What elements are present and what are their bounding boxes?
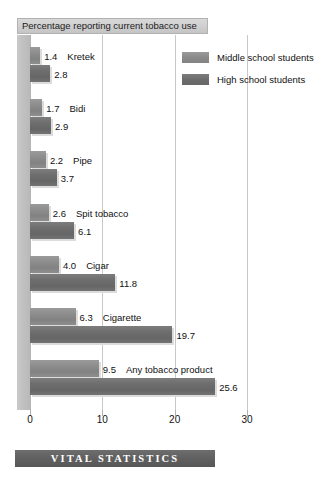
bar-shadow-right bbox=[74, 224, 76, 241]
bar-shadow-right bbox=[59, 258, 61, 275]
bar-shadow-right bbox=[46, 153, 48, 170]
value-label-middle-spit-tobacco: 2.6 bbox=[53, 208, 66, 219]
vital-statistics-banner: VITAL STATISTICS bbox=[15, 450, 215, 467]
bar-body bbox=[30, 222, 74, 239]
bar-shadow-bottom bbox=[32, 134, 53, 136]
value-label-high-pipe: 3.7 bbox=[61, 173, 74, 184]
bar-shadow-right bbox=[40, 49, 42, 66]
bar-body bbox=[30, 378, 215, 395]
category-label-pipe: Pipe bbox=[73, 155, 92, 166]
bar-shadow-right bbox=[115, 276, 117, 293]
value-label-middle-bidi: 1.7 bbox=[46, 103, 59, 114]
category-label-kretek: Kretek bbox=[67, 51, 94, 62]
bar-body bbox=[30, 308, 76, 325]
x-tick-label-0: 0 bbox=[27, 414, 33, 426]
bar-body bbox=[30, 47, 40, 64]
category-label-spit-tobacco: Spit tobacco bbox=[76, 208, 128, 219]
bar-shadow-right bbox=[51, 119, 53, 136]
legend-label-middle: Middle school students bbox=[217, 52, 314, 63]
legend-swatch-high-icon bbox=[182, 74, 209, 85]
bar-body bbox=[30, 117, 51, 134]
bar-shadow-right bbox=[99, 362, 101, 379]
bar-body bbox=[30, 204, 49, 221]
bar-body bbox=[30, 256, 59, 273]
value-label-high-bidi: 2.9 bbox=[55, 121, 68, 132]
bar-high-spit-tobacco bbox=[30, 222, 74, 239]
bar-middle-any-tobacco-product bbox=[30, 360, 99, 377]
bar-shadow-right bbox=[42, 101, 44, 118]
bar-body bbox=[30, 151, 46, 168]
chart-title: Percentage reporting current tobacco use bbox=[17, 18, 208, 34]
gridline-10 bbox=[102, 35, 103, 410]
bar-shadow-right bbox=[49, 206, 51, 223]
category-label-bidi: Bidi bbox=[69, 103, 85, 114]
bar-middle-bidi bbox=[30, 99, 42, 116]
bar-body bbox=[30, 99, 42, 116]
x-axis bbox=[30, 410, 248, 416]
category-label-cigarette: Cigarette bbox=[103, 312, 142, 323]
bar-middle-pipe bbox=[30, 151, 46, 168]
bar-shadow-bottom bbox=[32, 343, 174, 345]
value-label-high-cigar: 11.8 bbox=[119, 278, 137, 289]
bar-high-bidi bbox=[30, 117, 51, 134]
legend-swatch-middle-icon bbox=[182, 52, 209, 63]
y-axis-wall bbox=[17, 35, 30, 410]
bar-middle-cigarette bbox=[30, 308, 76, 325]
gridline-20 bbox=[175, 35, 176, 410]
x-tick-label-20: 20 bbox=[169, 414, 180, 426]
category-label-any-tobacco-product: Any tobacco product bbox=[126, 364, 213, 375]
bar-body bbox=[30, 65, 50, 82]
legend-item-high: High school students bbox=[182, 70, 314, 88]
bar-high-cigar bbox=[30, 274, 115, 291]
bar-shadow-bottom bbox=[32, 82, 52, 84]
x-tick-label-30: 30 bbox=[241, 414, 252, 426]
bar-shadow-right bbox=[172, 328, 174, 345]
bar-shadow-right bbox=[57, 171, 59, 188]
bar-high-cigarette bbox=[30, 326, 172, 343]
bar-high-pipe bbox=[30, 169, 57, 186]
value-label-middle-any-tobacco-product: 9.5 bbox=[103, 364, 116, 375]
chart-figure: Percentage reporting current tobacco use… bbox=[0, 0, 321, 479]
banner-label: VITAL STATISTICS bbox=[51, 453, 179, 464]
value-label-high-cigarette: 19.7 bbox=[176, 330, 195, 341]
bar-middle-spit-tobacco bbox=[30, 204, 49, 221]
value-label-middle-kretek: 1.4 bbox=[44, 51, 57, 62]
bar-body bbox=[30, 326, 172, 343]
bar-high-any-tobacco-product bbox=[30, 378, 215, 395]
value-label-middle-cigarette: 6.3 bbox=[80, 312, 93, 323]
bar-shadow-bottom bbox=[32, 186, 59, 188]
bar-shadow-bottom bbox=[32, 395, 217, 397]
bar-body bbox=[30, 169, 57, 186]
category-label-cigar: Cigar bbox=[86, 260, 109, 271]
bar-shadow-bottom bbox=[32, 291, 117, 293]
legend-item-middle: Middle school students bbox=[182, 48, 314, 66]
value-label-high-kretek: 2.8 bbox=[54, 69, 67, 80]
bar-shadow-right bbox=[50, 67, 52, 84]
bar-shadow-right bbox=[76, 310, 78, 327]
value-label-high-any-tobacco-product: 25.6 bbox=[219, 382, 238, 393]
value-label-middle-cigar: 4.0 bbox=[63, 260, 76, 271]
bar-high-kretek bbox=[30, 65, 50, 82]
bar-middle-kretek bbox=[30, 47, 40, 64]
bar-shadow-bottom bbox=[32, 239, 76, 241]
legend-label-high: High school students bbox=[217, 74, 305, 85]
bar-body bbox=[30, 360, 99, 377]
x-tick-label-10: 10 bbox=[97, 414, 108, 426]
chart-legend: Middle school studentsHigh school studen… bbox=[182, 48, 314, 92]
bar-middle-cigar bbox=[30, 256, 59, 273]
value-label-middle-pipe: 2.2 bbox=[50, 155, 63, 166]
bar-shadow-right bbox=[215, 380, 217, 397]
bar-body bbox=[30, 274, 115, 291]
value-label-high-spit-tobacco: 6.1 bbox=[78, 226, 91, 237]
